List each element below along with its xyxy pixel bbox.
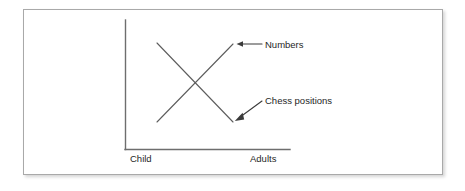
- crossover-line-chart: Child Adults Numbers Chess positions: [0, 0, 465, 191]
- x-tick-label-adults: Adults: [250, 153, 277, 164]
- annotation-label-chess-positions: Chess positions: [265, 95, 332, 106]
- annotation-label-numbers: Numbers: [265, 39, 304, 50]
- x-tick-label-child: Child: [130, 153, 152, 164]
- numbers-arrowhead-icon: [237, 41, 244, 47]
- figure-root: Child Adults Numbers Chess positions: [0, 0, 465, 191]
- chess-positions-arrowhead-icon: [235, 113, 244, 121]
